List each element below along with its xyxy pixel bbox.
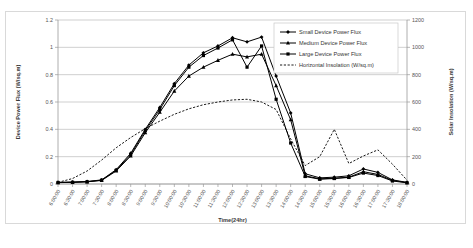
data-point	[286, 52, 289, 55]
x-axis-tick-label: 6:00:00	[48, 188, 62, 206]
y2-axis-tick-label: 1000	[412, 44, 424, 50]
y-axis-tick-label: 0.8	[46, 72, 54, 78]
data-point	[318, 178, 321, 181]
data-point	[245, 40, 249, 44]
data-point	[100, 179, 103, 182]
data-point	[405, 181, 408, 184]
data-point	[391, 179, 394, 182]
y2-axis-tick-label: 400	[412, 126, 421, 132]
x-axis-tick-label: 9:00:00	[135, 188, 149, 206]
x-axis-tick-label: 15:30:00	[322, 188, 337, 209]
y-axis-title: Device Power Flux (W/sq.m)	[15, 65, 21, 140]
x-axis-tick-label: 7:30:00	[91, 188, 105, 206]
data-point	[362, 171, 365, 174]
data-point	[275, 98, 278, 101]
x-axis-tick-label: 13:30:00	[264, 188, 279, 209]
data-point	[304, 175, 307, 178]
data-point	[260, 35, 264, 39]
y-axis-tick-label: 1.2	[46, 17, 54, 23]
x-axis-tick-label: 16:00:00	[337, 188, 352, 209]
line-chart: 00.20.40.60.811.20200400600800100012006:…	[6, 12, 465, 223]
series-line	[58, 54, 407, 182]
series-line	[58, 99, 407, 182]
x-axis-tick-label: 6:30:00	[62, 188, 76, 206]
x-axis-tick-label: 11:00:00	[192, 188, 207, 208]
data-point	[231, 38, 234, 41]
x-axis-tick-label: 14:30:00	[293, 188, 308, 209]
y-axis-tick-label: 0	[50, 181, 53, 187]
data-point	[376, 174, 379, 177]
x-axis-tick-label: 13:00:00	[250, 188, 265, 209]
data-point	[245, 66, 248, 69]
x-axis-tick-label: 17:30:00	[381, 188, 396, 209]
legend-label: Large Device Power Flux	[299, 51, 362, 57]
data-point	[187, 66, 190, 69]
x-axis-tick-label: 10:30:00	[177, 188, 192, 209]
data-point	[129, 153, 132, 156]
x-axis-tick-label: 17:00:00	[366, 188, 381, 209]
legend-label: Horizontal Insolation (W/sq.m)	[299, 62, 374, 68]
y2-axis-tick-label: 200	[412, 154, 421, 160]
data-point	[333, 177, 336, 180]
y-axis-tick-label: 0.2	[46, 154, 54, 160]
y2-axis-tick-label: 800	[412, 72, 421, 78]
x-axis-tick-label: 12:00:00	[221, 188, 236, 209]
y2-axis-tick-label: 600	[412, 99, 421, 105]
data-point	[231, 52, 235, 56]
y-axis-tick-label: 1	[50, 44, 53, 50]
x-axis-tick-label: 12:30:00	[235, 188, 250, 209]
x-axis-tick-label: 18:00:00	[395, 188, 410, 209]
x-axis-tick-label: 10:00:00	[162, 188, 177, 209]
y2-axis-tick-label: 1200	[412, 17, 424, 23]
legend-label: Medium Device Power Flux	[299, 40, 367, 46]
data-point	[71, 181, 74, 184]
data-point	[115, 169, 118, 172]
x-axis-tick-label: 7:00:00	[77, 188, 91, 206]
y2-axis-title: Solar Insolation (W/sq.m)	[448, 68, 454, 135]
x-axis-title: Time(24hr)	[218, 217, 247, 223]
x-axis-tick-label: 11:30:00	[206, 188, 221, 208]
data-point	[274, 83, 278, 87]
legend-label: Small Device Power Flux	[299, 29, 361, 35]
data-point	[144, 129, 147, 132]
chart-frame: 00.20.40.60.811.20200400600800100012006:…	[5, 11, 466, 224]
data-point	[216, 46, 219, 49]
y2-axis-tick-label: 0	[412, 181, 415, 187]
data-point	[289, 111, 293, 115]
data-point	[85, 180, 88, 183]
y-axis-tick-label: 0.4	[46, 126, 54, 132]
x-axis-tick-label: 14:00:00	[279, 188, 294, 209]
x-axis-tick-label: 15:00:00	[308, 188, 323, 209]
data-point	[173, 84, 176, 87]
x-axis-tick-label: 9:30:00	[149, 188, 163, 206]
series-3	[58, 99, 407, 182]
data-point	[260, 44, 263, 47]
x-axis-tick-label: 8:30:00	[120, 188, 134, 206]
y-axis-tick-label: 0.6	[46, 99, 54, 105]
data-point	[347, 176, 350, 179]
data-point	[158, 108, 161, 111]
x-axis-tick-label: 16:30:00	[351, 188, 366, 209]
data-point	[202, 54, 205, 57]
x-axis-tick-label: 8:00:00	[106, 188, 120, 206]
